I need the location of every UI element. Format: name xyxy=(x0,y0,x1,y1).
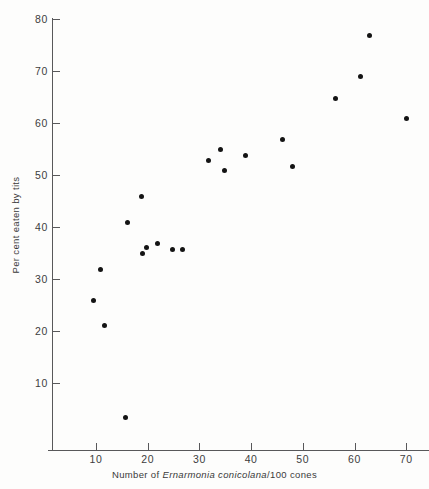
y-tick-40 xyxy=(53,227,60,228)
x-axis-title-species: Ernarmonia conicolana xyxy=(162,469,267,480)
data-point xyxy=(125,220,130,225)
x-tick-label-50: 50 xyxy=(288,454,318,465)
data-point xyxy=(170,247,175,252)
y-tick-50 xyxy=(53,175,60,176)
y-tick-label-40: 40 xyxy=(22,222,48,233)
y-tick-label-10: 10 xyxy=(22,378,48,389)
x-tick-label-40: 40 xyxy=(236,454,266,465)
y-tick-10 xyxy=(53,383,60,384)
x-axis-title-prefix: Number of xyxy=(112,469,163,480)
data-point xyxy=(91,298,96,303)
x-tick-50 xyxy=(303,443,304,450)
x-tick-30 xyxy=(199,443,200,450)
x-tick-label-30: 30 xyxy=(184,454,214,465)
x-axis-title-suffix: /100 cones xyxy=(267,469,317,480)
x-tick-label-70: 70 xyxy=(391,454,421,465)
data-point xyxy=(140,251,145,256)
data-point xyxy=(98,267,103,272)
y-tick-80 xyxy=(53,19,60,20)
x-axis-line xyxy=(48,450,429,451)
plot-area xyxy=(0,0,429,489)
y-axis-line xyxy=(52,18,53,451)
x-tick-60 xyxy=(355,443,356,450)
x-tick-20 xyxy=(148,443,149,450)
y-tick-60 xyxy=(53,123,60,124)
x-tick-label-10: 10 xyxy=(81,454,111,465)
data-point xyxy=(144,245,149,250)
data-point xyxy=(367,33,372,38)
x-tick-label-20: 20 xyxy=(133,454,163,465)
y-tick-30 xyxy=(53,279,60,280)
x-axis-title: Number of Ernarmonia conicolana/100 cone… xyxy=(0,469,429,480)
data-point xyxy=(333,96,338,101)
y-tick-20 xyxy=(53,331,60,332)
data-point xyxy=(243,153,248,158)
y-tick-label-80: 80 xyxy=(22,14,48,25)
y-axis-title: Per cent eaten by tits xyxy=(10,150,21,300)
data-point xyxy=(222,168,227,173)
y-tick-label-30: 30 xyxy=(22,274,48,285)
y-tick-label-50: 50 xyxy=(22,170,48,181)
data-point xyxy=(358,74,363,79)
y-tick-label-20: 20 xyxy=(22,326,48,337)
y-tick-label-70: 70 xyxy=(22,66,48,77)
scatter-plot-figure: 1020304050607080 10203040506070 Per cent… xyxy=(0,0,429,489)
data-point xyxy=(404,116,409,121)
x-tick-10 xyxy=(96,443,97,450)
x-tick-40 xyxy=(251,443,252,450)
data-point xyxy=(180,247,185,252)
x-tick-label-60: 60 xyxy=(340,454,370,465)
data-point xyxy=(290,164,295,169)
data-point xyxy=(206,158,211,163)
data-point xyxy=(155,241,160,246)
y-tick-70 xyxy=(53,71,60,72)
data-point xyxy=(139,194,144,199)
data-point xyxy=(218,147,223,152)
x-tick-70 xyxy=(406,443,407,450)
data-point xyxy=(102,323,107,328)
data-point xyxy=(280,137,285,142)
y-tick-label-60: 60 xyxy=(22,118,48,129)
data-point xyxy=(123,415,128,420)
